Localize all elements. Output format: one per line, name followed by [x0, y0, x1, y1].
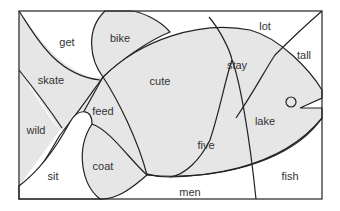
- region-label-fish: fish: [281, 171, 298, 182]
- region-label-men: men: [179, 187, 200, 198]
- region-label-stay: stay: [227, 60, 247, 71]
- region-label-lot: lot: [259, 21, 271, 32]
- region-label-five: five: [197, 140, 214, 151]
- region-label-lake: lake: [255, 116, 275, 127]
- region-label-cute: cute: [150, 76, 171, 87]
- region-label-coat: coat: [93, 161, 114, 172]
- region-label-skate: skate: [38, 75, 64, 86]
- region-label-tall: tall: [297, 50, 311, 61]
- region-label-wild: wild: [27, 125, 46, 136]
- region-label-get: get: [59, 37, 74, 48]
- region-label-bike: bike: [110, 33, 130, 44]
- region-label-feed: feed: [92, 106, 113, 117]
- region-label-sit: sit: [48, 171, 59, 182]
